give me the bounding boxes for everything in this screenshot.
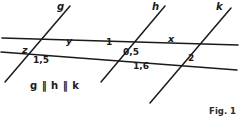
angle-label-x: x bbox=[168, 34, 174, 44]
line-label-g: g bbox=[57, 2, 64, 12]
angle-label-2: 2 bbox=[188, 54, 194, 63]
value-label-0-5: 0,5 bbox=[123, 48, 139, 57]
line-label-h: h bbox=[152, 2, 159, 12]
line-label-k: k bbox=[216, 2, 223, 12]
figure-caption: Fig. 1 bbox=[209, 106, 236, 116]
transversal-lines-group bbox=[1, 38, 238, 70]
geometry-figure: g h k z y 1 x 2 1,5 0,5 1,6 g ‖ h ‖ k Fi… bbox=[0, 0, 240, 117]
angle-label-1: 1 bbox=[106, 38, 112, 47]
line-g bbox=[5, 6, 70, 82]
angle-label-y: y bbox=[66, 36, 72, 46]
value-label-1-6: 1,6 bbox=[133, 62, 149, 71]
parallel-relation-note: g ‖ h ‖ k bbox=[30, 80, 79, 91]
value-label-1-5: 1,5 bbox=[33, 56, 49, 65]
angle-label-z: z bbox=[22, 45, 28, 55]
